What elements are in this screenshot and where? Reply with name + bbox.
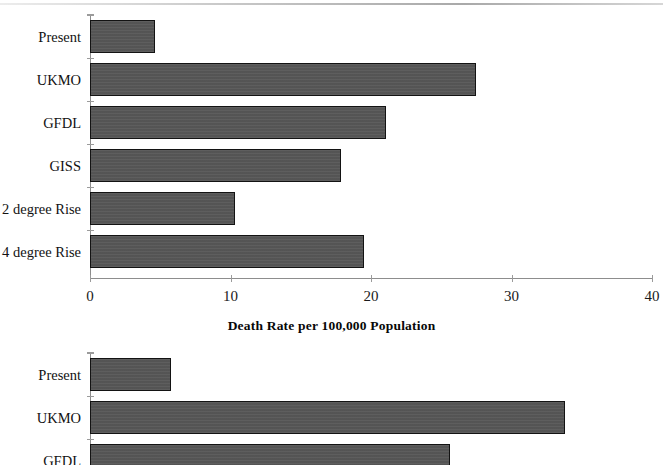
category-label-2-degree-rise: 2 degree Rise <box>2 202 81 217</box>
bar-2-degree-rise <box>90 192 235 225</box>
bar-giss <box>90 149 341 182</box>
x-axis-tick-label: 0 <box>70 289 110 304</box>
bar-ukmo <box>90 401 565 434</box>
y-axis-tick <box>87 396 94 397</box>
category-label-present: Present <box>38 368 81 383</box>
y-axis-tick <box>87 353 94 354</box>
category-label-4-degree-rise: 4 degree Rise <box>2 245 81 260</box>
chart-panel-top: PresentUKMOGFDLGISS2 degree Rise4 degree… <box>0 0 663 330</box>
x-axis-tick-label: 20 <box>351 289 391 304</box>
chart-panel-bottom: PresentUKMOGFDL <box>0 330 663 465</box>
category-label-gfdl: GFDL <box>43 116 81 131</box>
y-axis-tick <box>87 58 94 59</box>
bar-gfdl <box>90 444 450 465</box>
category-label-gfdl: GFDL <box>43 454 81 465</box>
x-axis-tick-label: 40 <box>632 289 663 304</box>
bar-present <box>90 20 155 53</box>
bar-present <box>90 358 171 391</box>
category-label-ukmo: UKMO <box>37 411 81 426</box>
x-axis-tick <box>231 275 232 282</box>
x-axis-tick <box>90 275 91 282</box>
category-label-present: Present <box>38 30 81 45</box>
y-axis-tick <box>87 230 94 231</box>
y-axis-tick <box>87 439 94 440</box>
category-label-giss: GISS <box>50 159 81 174</box>
y-axis-tick <box>87 352 94 353</box>
bar-ukmo <box>90 63 476 96</box>
y-axis-tick <box>87 187 94 188</box>
category-label-ukmo: UKMO <box>37 73 81 88</box>
x-axis-tick-label: 30 <box>492 289 532 304</box>
y-axis-tick <box>87 14 94 15</box>
y-axis-tick <box>87 15 94 16</box>
y-axis-tick <box>87 144 94 145</box>
bar-gfdl <box>90 106 386 139</box>
x-axis-tick <box>512 275 513 282</box>
y-axis-tick <box>87 101 94 102</box>
x-axis-tick-label: 10 <box>211 289 251 304</box>
bar-4-degree-rise <box>90 235 364 268</box>
x-axis-tick <box>371 275 372 282</box>
x-axis-tick <box>652 275 653 282</box>
